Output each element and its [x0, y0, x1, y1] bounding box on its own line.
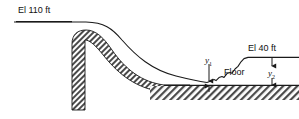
- label-downstream-elevation: El 40 ft: [248, 44, 276, 53]
- floor-ground-hatch: [150, 86, 299, 100]
- y1-subscript: 1: [209, 61, 212, 67]
- spillway-diagram: El 110 ft El 40 ft Floor y1 y2: [0, 0, 299, 119]
- label-depth-y2: y2: [268, 69, 275, 80]
- label-floor: Floor: [224, 68, 245, 77]
- y2-subscript: 2: [272, 74, 275, 80]
- label-depth-y1: y1: [205, 56, 212, 67]
- label-upstream-elevation: El 110 ft: [18, 6, 50, 15]
- diagram-canvas: [0, 0, 299, 119]
- hydraulic-jump-surface: [207, 57, 299, 82]
